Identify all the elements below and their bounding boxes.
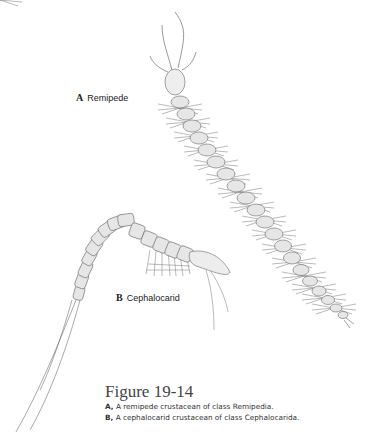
caption-letter-a: A,: [105, 402, 114, 411]
figure-caption: Figure 19-14 A, A remipede crustacean of…: [105, 383, 299, 423]
caption-line-b: B, A cephalocarid crustacean of class Ce…: [105, 412, 299, 423]
label-a-letter: A: [76, 92, 83, 103]
label-remipede: ARemipede: [76, 92, 128, 103]
figure-illustration: [0, 0, 377, 441]
caption-text-b: A cephalocarid crustacean of class Cepha…: [113, 413, 299, 422]
label-a-name: Remipede: [87, 93, 128, 103]
caption-text-a: A remipede crustacean of class Remipedia…: [114, 402, 274, 411]
label-cephalocarid: BCephalocarid: [116, 292, 180, 303]
caption-line-a: A, A remipede crustacean of class Remipe…: [105, 401, 299, 412]
remipede-drawing: [0, 0, 356, 328]
label-b-name: Cephalocarid: [127, 293, 180, 303]
label-b-letter: B: [116, 292, 123, 303]
caption-title: Figure 19-14: [105, 383, 299, 401]
